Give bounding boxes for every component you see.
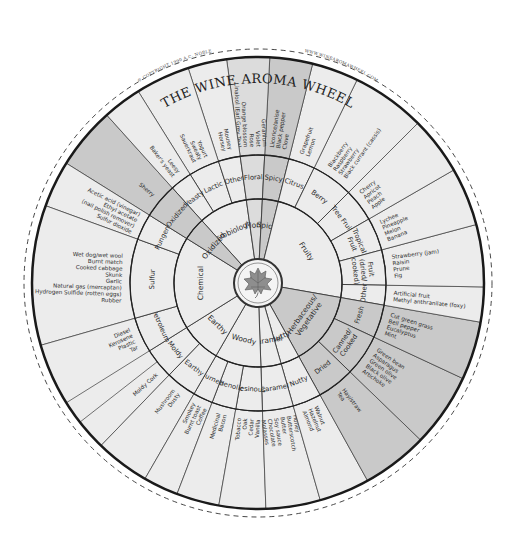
tier2-label: Sulfur xyxy=(148,269,157,289)
wine-aroma-wheel: SherryAcetic acid (vinegar)Ethyl acetate… xyxy=(0,0,517,546)
tier1-label: Chemical xyxy=(196,266,205,300)
center-hub xyxy=(234,259,282,307)
tier2-label: Floral xyxy=(244,173,263,182)
